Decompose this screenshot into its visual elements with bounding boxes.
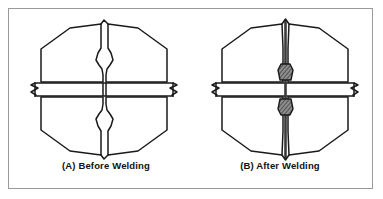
member-half-left-lower-welded (222, 97, 283, 155)
horizontal-plate (35, 83, 173, 96)
weld-bead-bottom (278, 99, 293, 115)
groove-notch-top (101, 20, 108, 24)
panel-b-drawing (212, 19, 358, 160)
member-half-right-upper-welded (288, 24, 348, 82)
groove-notch-bottom (101, 155, 108, 159)
member-half-right-upper (106, 24, 167, 82)
member-half-left-upper (41, 24, 103, 82)
panel-a-caption: (A) Before Welding (26, 160, 186, 171)
member-half-right-lower (106, 97, 167, 155)
member-half-left-lower (41, 97, 103, 155)
welding-figure: (A) Before Welding (B) After Welding (0, 0, 383, 199)
member-half-left-upper-welded (222, 24, 283, 82)
panel-b-caption: (B) After Welding (200, 160, 360, 171)
member-half-right-lower-welded (288, 97, 348, 155)
panel-a-drawing (31, 20, 177, 159)
weld-bead-top (278, 64, 293, 80)
